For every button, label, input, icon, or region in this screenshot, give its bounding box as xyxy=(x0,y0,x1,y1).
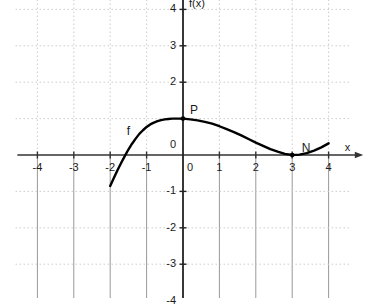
y-tick-label-neg1: -1 xyxy=(166,185,176,196)
x-tick-label-2: 2 xyxy=(253,162,259,173)
x-tick-label-neg1: -1 xyxy=(142,162,152,173)
y-tick-label-neg4: -4 xyxy=(166,295,176,306)
y-axis-name-label: f(x) xyxy=(189,0,205,9)
point-P: P xyxy=(190,105,198,116)
point-N: N xyxy=(302,143,311,154)
x-tick-label-4: 4 xyxy=(326,162,332,173)
marker-P xyxy=(181,116,186,121)
curve-label-f: f xyxy=(127,126,130,137)
x-tick-label-1: 1 xyxy=(216,162,222,173)
y-tick-label-3: 3 xyxy=(170,40,176,51)
y-tick-label-0: 0 xyxy=(170,139,176,150)
x-tick-label-neg2: -2 xyxy=(105,162,115,173)
y-tick-label-neg3: -3 xyxy=(166,258,176,269)
x-axis-name-label: x xyxy=(345,142,351,153)
y-tick-label-4: 4 xyxy=(170,3,176,14)
y-tick-label-neg2: -2 xyxy=(166,222,176,233)
x-tick-label-neg3: -3 xyxy=(69,162,79,173)
x-tick-label-neg4: -4 xyxy=(33,162,43,173)
y-tick-label-2: 2 xyxy=(170,76,176,87)
marker-N xyxy=(290,153,295,158)
x-tick-label-0: 0 xyxy=(187,162,193,173)
x-tick-label-3: 3 xyxy=(289,162,295,173)
x-axis-arrow xyxy=(355,152,363,158)
